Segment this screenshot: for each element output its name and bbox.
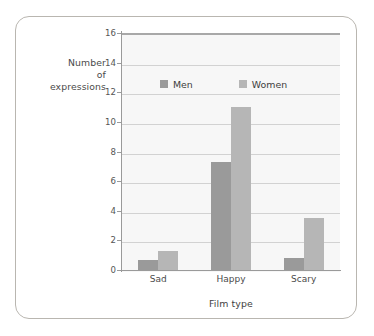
- bar-scary-women: [304, 218, 324, 270]
- y-axis-tick-label: 16: [90, 28, 116, 38]
- bar-sad-women: [158, 251, 178, 270]
- y-axis-tickmark: [117, 240, 121, 241]
- bar-happy-women: [231, 107, 251, 270]
- legend-swatch-men-icon: [160, 80, 168, 88]
- legend-swatch-women-icon: [239, 80, 247, 88]
- y-axis-tickmark: [117, 63, 121, 64]
- y-axis-tick-label: 4: [90, 206, 116, 216]
- y-axis-tickmark: [117, 270, 121, 271]
- y-axis-tick-label: 0: [90, 265, 116, 275]
- y-axis-ticks: 0246810121416: [86, 33, 116, 270]
- chart-legend: Men Women: [160, 77, 287, 91]
- bar-scary-men: [284, 258, 304, 270]
- bar-sad-men: [138, 260, 158, 270]
- y-axis-tickmark: [117, 33, 121, 34]
- y-axis-tickmark: [117, 152, 121, 153]
- x-axis-ticks: SadHappyScary: [122, 274, 340, 290]
- legend-entry-women: Women: [239, 79, 287, 90]
- y-axis-tickmark: [117, 92, 121, 93]
- y-axis-tickmark: [117, 211, 121, 212]
- x-axis-line: [121, 270, 341, 271]
- legend-entry-men: Men: [160, 79, 193, 90]
- y-axis-tickmark: [117, 181, 121, 182]
- y-axis-tick-label: 14: [90, 58, 116, 68]
- y-axis-tickmark: [117, 122, 121, 123]
- y-axis-tick-label: 8: [90, 147, 116, 157]
- y-axis-tick-label: 12: [90, 87, 116, 97]
- x-axis-title: Film type: [122, 298, 340, 309]
- y-axis-tick-label: 10: [90, 117, 116, 127]
- x-axis-tick-label-sad: Sad: [150, 274, 167, 284]
- legend-label-men: Men: [173, 79, 193, 90]
- y-axis-tick-label: 6: [90, 176, 116, 186]
- legend-label-women: Women: [252, 79, 287, 90]
- x-axis-tick-label-scary: Scary: [291, 274, 316, 284]
- chart-figure: Number of expressions 0246810121416 SadH…: [0, 0, 374, 336]
- x-axis-tick-label-happy: Happy: [216, 274, 245, 284]
- bar-happy-men: [211, 162, 231, 270]
- bar-group: [122, 33, 340, 270]
- y-axis-tick-label: 2: [90, 235, 116, 245]
